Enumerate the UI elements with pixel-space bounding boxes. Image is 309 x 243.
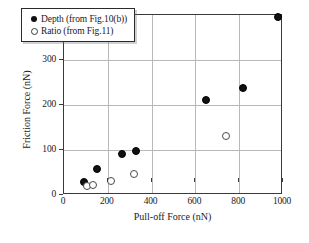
gridline-horizontal [64, 105, 281, 106]
x-axis-tick [107, 178, 108, 182]
data-point-series-1 [89, 181, 97, 189]
gridline-horizontal [64, 60, 281, 61]
gridline-vertical [195, 15, 196, 193]
x-axis-tick-label: 1000 [273, 196, 291, 206]
data-point-series-1 [107, 177, 115, 185]
x-axis-tick [238, 178, 239, 182]
data-point-series-0 [274, 13, 282, 21]
data-point-series-0 [202, 96, 210, 104]
legend-item-label: Depth (from Fig.10(b)) [41, 14, 127, 24]
data-point-series-0 [118, 150, 126, 158]
y-axis-tick-label: 300 [42, 54, 56, 64]
x-axis-title: Pull-off Force (nN) [63, 211, 282, 222]
y-axis-tick-label: 200 [42, 99, 56, 109]
x-axis-tick [63, 178, 64, 182]
y-axis-tick [59, 149, 63, 150]
legend-item: Depth (from Fig.10(b)) [27, 13, 127, 25]
scatter-chart-figure: Pull-off Force (nN) Friction Force (nN) … [0, 0, 309, 243]
legend-item: Ratio (from Fig.11) [27, 25, 127, 37]
x-axis-tick-label: 800 [231, 196, 245, 206]
x-axis-tick [282, 178, 283, 182]
x-axis-tick [151, 178, 152, 182]
legend-item-label: Ratio (from Fig.11) [41, 26, 113, 36]
filled-circle-icon [27, 16, 41, 22]
y-axis-title: Friction Force (nN) [21, 30, 32, 190]
x-axis-tick-label: 600 [188, 196, 202, 206]
data-point-series-1 [130, 170, 138, 178]
x-axis-tick [194, 178, 195, 182]
x-axis-tick-label: 0 [61, 196, 66, 206]
data-point-series-1 [222, 132, 230, 140]
gridline-vertical [239, 15, 240, 193]
data-point-series-0 [93, 165, 101, 173]
x-axis-tick-label: 200 [100, 196, 114, 206]
open-circle-icon [27, 28, 41, 35]
y-axis-tick [59, 59, 63, 60]
x-axis-tick-label: 400 [144, 196, 158, 206]
data-point-series-0 [239, 84, 247, 92]
y-axis-tick-label: 0 [51, 189, 56, 199]
data-point-series-0 [132, 147, 140, 155]
gridline-vertical [152, 15, 153, 193]
gridline-horizontal [64, 150, 281, 151]
y-axis-tick [59, 194, 63, 195]
y-axis-tick-label: 100 [42, 144, 56, 154]
y-axis-tick [59, 104, 63, 105]
chart-legend: Depth (from Fig.10(b))Ratio (from Fig.11… [21, 8, 135, 42]
